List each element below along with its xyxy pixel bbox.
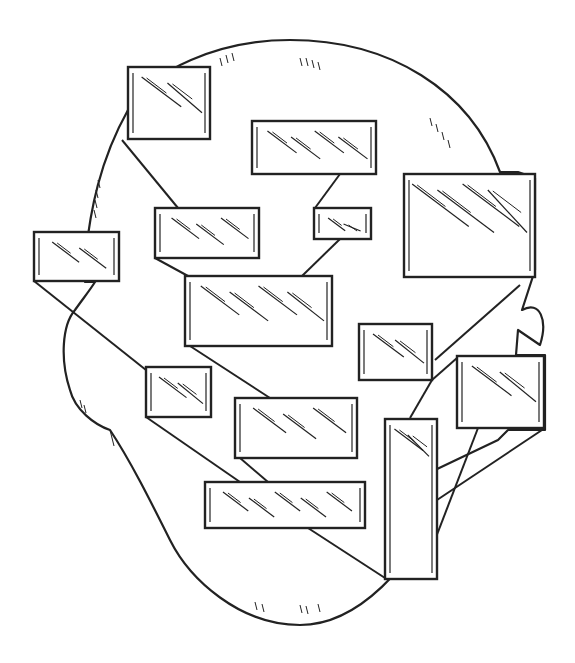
head-glass-illustration bbox=[0, 0, 575, 663]
pane-center-large bbox=[185, 276, 332, 346]
connector-line bbox=[240, 458, 268, 482]
connector-line bbox=[315, 174, 340, 208]
connector-line bbox=[122, 140, 178, 208]
connector-line bbox=[155, 258, 188, 276]
pane-right-large bbox=[404, 174, 535, 277]
connector-line bbox=[435, 285, 520, 360]
pane-top-left bbox=[128, 67, 210, 139]
connector-line bbox=[302, 239, 340, 276]
pane-right-mid bbox=[359, 324, 432, 380]
connector-line bbox=[437, 428, 545, 500]
connector-line bbox=[146, 417, 240, 482]
pane-vertical-tall bbox=[385, 419, 437, 579]
connector-line bbox=[410, 380, 432, 418]
pane-center-lower bbox=[235, 398, 357, 458]
connector-line bbox=[308, 528, 385, 578]
illustration-canvas bbox=[0, 0, 575, 663]
pane-mid-left bbox=[155, 208, 259, 258]
connector-line bbox=[432, 358, 457, 380]
pane-bottom-wide bbox=[205, 482, 365, 528]
pane-far-right bbox=[457, 356, 544, 428]
pane-mid-small bbox=[314, 208, 371, 239]
pane-far-left bbox=[34, 232, 119, 281]
connector-line bbox=[34, 281, 146, 370]
pane-top-center bbox=[252, 121, 376, 174]
pane-left-small bbox=[146, 367, 211, 417]
connector-line bbox=[433, 428, 478, 545]
